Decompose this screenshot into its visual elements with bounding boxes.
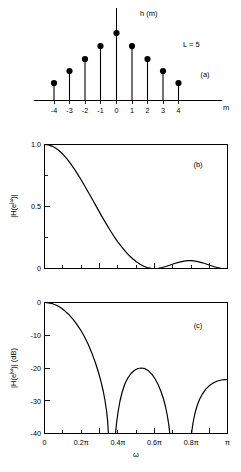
stem-dot-m-0 (113, 30, 119, 36)
panel-a-xtick-label-4: 4 (177, 106, 181, 115)
panel-b-ytick-label-0: 0 (37, 264, 41, 273)
panel-a-xtick-label-2: 2 (146, 106, 150, 115)
panel-b-xticks (45, 263, 228, 269)
panel-a-svg: -4 -3 -2 -1 0 1 2 3 4 h (m) L = 5 (a) m (0, 0, 241, 125)
stem-dot-m-3 (160, 68, 166, 74)
panel-a-xtick-label-neg3: -3 (66, 106, 72, 115)
panel-c-ytick-label-40: -40 (31, 429, 41, 438)
panel-a-xaxis-label: m (223, 103, 229, 112)
panel-a-xtick-label-neg2: -2 (82, 106, 88, 115)
panel-c-yticks (45, 303, 51, 434)
figure-container: -4 -3 -2 -1 0 1 2 3 4 h (m) L = 5 (a) m (0, 0, 241, 472)
panel-b-ytick-label-1: 1.0 (31, 140, 41, 149)
stem-dot-m-neg4 (51, 80, 57, 86)
panel-c-xtick-label-02pi: 0.2π (74, 438, 89, 447)
panel-c-log-magnitude-response: 0 -10 -20 -30 -40 0 0.2π 0.4π 0.6π 0.8π … (0, 288, 241, 472)
panel-c-xtick-label-06pi: 0.6π (147, 438, 162, 447)
panel-b-ylabel-group: |H(ejω)| (8, 194, 18, 218)
panel-c-xtick-label-04pi: 0.4π (110, 438, 125, 447)
stem-dot-m-neg1 (97, 43, 103, 49)
panel-c-ytick-label-30: -30 (31, 397, 41, 406)
stem-dot-m-2 (144, 56, 150, 62)
panel-c-ylabel: |H(ejω)| (dB) (8, 348, 18, 388)
panel-a-xtick-label-3: 3 (161, 106, 165, 115)
panel-c-xaxis-label: ω (133, 450, 139, 459)
panel-a-xtick-label-1: 1 (130, 106, 134, 115)
panel-a-impulse-response: -4 -3 -2 -1 0 1 2 3 4 h (m) L = 5 (a) m (0, 0, 241, 125)
stem-dot-m-neg3 (66, 68, 72, 74)
panel-a-xtick-label-neg4: -4 (51, 106, 57, 115)
panel-b-yticks (45, 145, 51, 269)
panel-c-curve-sidelobe-2 (192, 380, 228, 434)
stem-dot-m-1 (129, 43, 135, 49)
panel-c-xticks (45, 428, 228, 434)
stem-group (51, 30, 182, 100)
panel-c-ylabel-group: |H(ejω)| (dB) (8, 348, 18, 388)
stem-dot-m-4 (175, 80, 181, 86)
panel-a-tag: (a) (200, 70, 210, 79)
panel-a-annotation-L: L = 5 (183, 40, 200, 49)
panel-b-tag: (b) (193, 160, 203, 169)
panel-c-xtick-label-08pi: 0.8π (184, 438, 199, 447)
panel-b-ytick-label-05: 0.5 (31, 202, 41, 211)
panel-b-svg: 1.0 0.5 0 |H(ejω)| (b) (0, 130, 241, 280)
panel-c-ytick-label-0: 0 (37, 298, 41, 307)
panel-c-curve-mainlobe (45, 303, 109, 434)
panel-b-ylabel: |H(ejω)| (8, 194, 18, 218)
panel-c-tag: (c) (194, 321, 203, 330)
panel-b-magnitude-response: 1.0 0.5 0 |H(ejω)| (b) (0, 130, 241, 280)
panel-c-xtick-label-0: 0 (43, 438, 47, 447)
panel-a-xtick-label-neg1: -1 (97, 106, 103, 115)
panel-a-xtick-label-0: 0 (115, 106, 119, 115)
panel-c-ytick-label-10: -10 (31, 331, 41, 340)
panel-c-xtick-label-pi: π (225, 438, 230, 447)
panel-c-svg: 0 -10 -20 -30 -40 0 0.2π 0.4π 0.6π 0.8π … (0, 288, 241, 472)
panel-c-curve-sidelobe-1 (116, 368, 170, 434)
panel-a-signal-label: h (m) (140, 9, 158, 18)
stem-dot-m-neg2 (82, 56, 88, 62)
panel-c-ytick-label-20: -20 (31, 364, 41, 373)
